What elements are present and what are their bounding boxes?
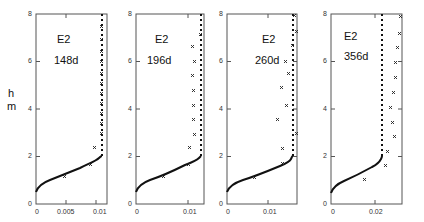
y-tick-label: 0 xyxy=(219,200,223,207)
panel-356d: 8 6 4 2 0 0 0.02 E2 356d xyxy=(323,10,402,215)
panel-label-line2: 196d xyxy=(147,54,171,66)
panel-260d: 8 6 4 2 0 0 0.01 E2 260d xyxy=(219,10,298,215)
measured-markers xyxy=(63,25,103,178)
y-axis-label-h: h xyxy=(8,87,14,99)
y-tick-label: 4 xyxy=(128,105,132,112)
model-curve-solid xyxy=(36,156,102,192)
y-tick-label: 4 xyxy=(323,105,327,112)
y-tick-label: 6 xyxy=(128,57,132,64)
plot-frame xyxy=(136,14,204,204)
x-tick-label: 0.01 xyxy=(93,208,107,215)
panel-196d: 8 6 4 2 0 0 0.01 E2 196d xyxy=(128,10,204,215)
y-tick-label: 8 xyxy=(128,10,132,17)
panel-label-line1: E2 xyxy=(57,33,70,45)
plot-frame xyxy=(331,14,402,204)
model-curve-solid xyxy=(331,156,382,193)
chart-figure: h m 8 6 4 2 0 0 0.005 0.01 E2 148d xyxy=(0,0,424,222)
x-tick-label: 0 xyxy=(35,208,39,215)
measured-markers xyxy=(253,14,298,179)
y-tick-label: 8 xyxy=(323,10,327,17)
y-tick-label: 2 xyxy=(219,152,223,159)
model-curve-solid xyxy=(136,156,201,192)
panel-label-line1: E2 xyxy=(155,33,168,45)
y-tick-label: 8 xyxy=(28,10,32,17)
y-tick-label: 6 xyxy=(323,57,327,64)
y-tick-label: 2 xyxy=(323,152,327,159)
panel-label-line1: E2 xyxy=(262,33,275,45)
y-tick-label: 2 xyxy=(28,152,32,159)
y-tick-label: 2 xyxy=(128,152,132,159)
y-tick-label: 8 xyxy=(219,10,223,17)
panel-148d: 8 6 4 2 0 0 0.005 0.01 E2 148d xyxy=(28,10,107,215)
x-tick-label: 0.02 xyxy=(369,208,383,215)
panel-label-line2: 148d xyxy=(54,54,78,66)
chart-canvas: h m 8 6 4 2 0 0 0.005 0.01 E2 148d xyxy=(0,0,424,222)
y-axis-label-m: m xyxy=(7,100,16,112)
y-tick-label: 0 xyxy=(323,200,327,207)
x-tick-label: 0 xyxy=(226,208,230,215)
panel-label-line2: 260d xyxy=(255,54,279,66)
y-tick-label: 0 xyxy=(28,200,32,207)
model-curve-solid xyxy=(227,156,293,192)
x-tick-label: 0.005 xyxy=(57,208,75,215)
panel-label-line1: E2 xyxy=(344,30,357,42)
y-tick-label: 0 xyxy=(128,200,132,207)
y-tick-label: 4 xyxy=(219,105,223,112)
x-tick-label: 0 xyxy=(331,208,335,215)
plot-frame xyxy=(36,14,107,204)
y-tick-label: 6 xyxy=(219,57,223,64)
x-tick-label: 0.01 xyxy=(183,208,197,215)
panel-label-line2: 356d xyxy=(344,50,368,62)
y-tick-label: 4 xyxy=(28,105,32,112)
x-tick-label: 0.01 xyxy=(263,208,277,215)
y-tick-label: 6 xyxy=(28,57,32,64)
x-tick-label: 0 xyxy=(135,208,139,215)
